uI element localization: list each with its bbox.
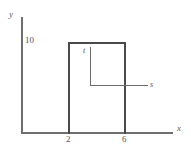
y-axis-line [21,17,23,134]
pulse-plateau [68,42,126,44]
pulse-falling-edge [124,42,126,134]
s-leader-line [90,85,148,86]
y-axis-label: y [9,10,13,19]
t-leader-line [90,47,91,86]
annotation-label-s: s [150,81,153,89]
pulse-rising-edge [68,42,70,134]
x-axis-label: x [177,124,181,133]
x-axis-line [21,132,173,134]
pulse-function-figure: y x 10 2 6 t s [0,0,191,146]
x-tick-label-2: 2 [66,135,71,144]
annotation-label-t: t [83,47,85,55]
y-tick-label-10: 10 [25,36,34,45]
x-tick-label-6: 6 [122,135,127,144]
